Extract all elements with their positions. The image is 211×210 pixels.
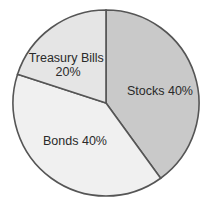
- label-stocks: Stocks 40%: [127, 84, 193, 98]
- label-bonds: Bonds 40%: [43, 134, 107, 148]
- label-treasury-bills-name: Treasury Bills: [29, 51, 104, 65]
- label-treasury-bills-pct: 20%: [55, 65, 80, 79]
- pie-chart: Stocks 40% Bonds 40% Treasury Bills 20%: [0, 0, 211, 210]
- pie-slices: [13, 10, 199, 196]
